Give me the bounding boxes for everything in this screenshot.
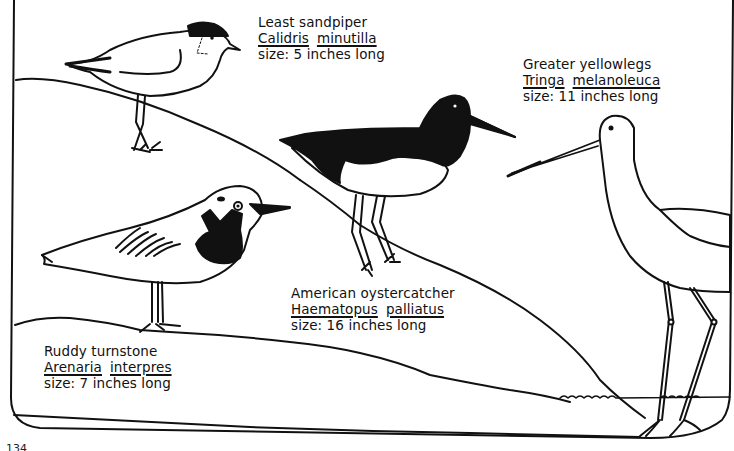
- scientific-name: Haematopuspalliatus: [291, 301, 455, 317]
- species: minutilla: [317, 30, 377, 46]
- genus: Arenaria: [44, 359, 102, 375]
- page-number: 134: [6, 443, 27, 451]
- least-sandpiper-label: Least sandpiper Calidrisminutilla size: …: [258, 14, 385, 62]
- species: palliatus: [386, 301, 444, 317]
- water-ripples: [560, 396, 730, 398]
- size-text: size: 16 inches long: [291, 317, 455, 333]
- genus: Tringa: [523, 72, 565, 88]
- size-text: size: 5 inches long: [258, 46, 385, 62]
- species: melanoleuca: [573, 72, 661, 88]
- ruddy-turnstone-drawing: [42, 186, 290, 332]
- size-text: size: 11 inches long: [523, 88, 660, 104]
- scientific-name: Arenariainterpres: [44, 359, 172, 375]
- american-oystercatcher-drawing: [280, 95, 515, 276]
- ruddy-turnstone-label: Ruddy turnstone Arenariainterpres size: …: [44, 343, 172, 391]
- greater-yellowlegs-drawing: [508, 116, 730, 436]
- scientific-name: Tringamelanoleuca: [523, 72, 660, 88]
- common-name: Ruddy turnstone: [44, 343, 172, 359]
- common-name: Greater yellowlegs: [523, 56, 660, 72]
- genus: Calidris: [258, 30, 309, 46]
- size-text: size: 7 inches long: [44, 375, 172, 391]
- american-oystercatcher-label: American oystercatcher Haematopuspalliat…: [291, 285, 455, 333]
- genus: Haematopus: [291, 301, 378, 317]
- species: interpres: [110, 359, 172, 375]
- greater-yellowlegs-label: Greater yellowlegs Tringamelanoleuca siz…: [523, 56, 660, 104]
- common-name: American oystercatcher: [291, 285, 455, 301]
- common-name: Least sandpiper: [258, 14, 385, 30]
- scientific-name: Calidrisminutilla: [258, 30, 385, 46]
